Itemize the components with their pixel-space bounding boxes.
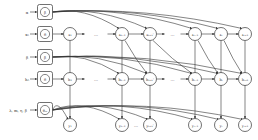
y-node-3: yₜ₋₁: [189, 119, 202, 132]
y-node-4-label: yₜ: [219, 124, 223, 128]
y-node-1-label: yₖ₋₁: [118, 124, 126, 128]
x-node-3: xₜ₋₁: [189, 28, 202, 41]
input-label-x0: x₀: [25, 32, 29, 37]
y-node-1: yₖ₋₁: [116, 119, 129, 132]
y-node-5-label: yₜ₊₁: [241, 124, 249, 128]
x-node-0-label: x₁: [68, 33, 72, 37]
y-node-4: yₜ: [215, 119, 228, 132]
input-node-x0: δ: [38, 27, 53, 42]
y-node-2: yₖ₊ₖ': [144, 119, 157, 132]
input-node-alpha-label: β: [44, 11, 46, 15]
input-label-h0: h₀: [25, 77, 29, 82]
input-node-beta-label: β: [44, 56, 46, 60]
h-node-4-label: hₜ: [219, 78, 222, 82]
input-label-alpha: α: [26, 10, 29, 15]
graphical-model-diagram: αβx₀δββh₀δλ, m, η, βθₘ……x₁xₖ₋₁xₖ₊ₖ'xₜ₋₁x…: [0, 0, 258, 140]
y-node-3-label: yₜ₋₁: [191, 124, 199, 128]
x-node-4: xₜ: [215, 28, 228, 41]
x-ellipsis-2: …: [171, 32, 175, 37]
h-node-4: hₜ: [215, 73, 228, 86]
x-node-5-label: xₜ₊₁: [242, 33, 249, 37]
h-ellipsis-0: …: [94, 77, 98, 82]
h-node-0: h₁: [64, 73, 77, 86]
input-node-h0-label: δ: [44, 78, 46, 82]
x-node-3-label: xₜ₋₁: [192, 33, 199, 37]
h-ellipsis-2: …: [171, 77, 175, 82]
x-node-4-label: xₜ: [220, 33, 223, 37]
input-label-theta: λ, m, η, β: [9, 108, 27, 113]
y-node-5: yₜ₊₁: [239, 119, 252, 132]
x-ellipsis-0: …: [94, 32, 98, 37]
h-node-5: hₜ₊₁: [239, 73, 252, 86]
h-node-5-label: hₜ₊₁: [242, 78, 249, 82]
input-node-alpha: β: [38, 5, 53, 20]
input-label-beta: β: [26, 55, 28, 60]
x-node-2-label: xₖ₊ₖ': [146, 33, 154, 37]
y-ellipsis: …: [134, 123, 138, 128]
x-node-1-label: xₖ₋₁: [119, 33, 126, 37]
x-node-0: x₁: [64, 28, 77, 41]
x-node-1: xₖ₋₁: [116, 28, 129, 41]
h-node-1-label: hₖ₋₁: [119, 78, 127, 82]
h-node-1: hₖ₋₁: [116, 73, 129, 86]
x-node-5: xₜ₊₁: [239, 28, 252, 41]
input-node-h0: δ: [38, 72, 53, 87]
input-node-beta: β: [38, 50, 53, 65]
y-node-0-label: y₁: [67, 124, 72, 128]
y-node-0: y₁: [64, 119, 77, 132]
edges: [30, 11, 245, 120]
input-node-theta: θₘ: [38, 103, 53, 118]
h-node-0-label: h₁: [68, 78, 72, 82]
h-node-2: hₖ₊ₖ': [144, 73, 157, 86]
h-node-3-label: hₜ₋₁: [192, 78, 199, 82]
input-node-x0-label: δ: [44, 33, 46, 37]
h-node-2-label: hₖ₊ₖ': [146, 78, 154, 82]
y-node-2-label: yₖ₊ₖ': [145, 124, 154, 128]
x-node-2: xₖ₊ₖ': [144, 28, 157, 41]
h-node-3: hₜ₋₁: [189, 73, 202, 86]
